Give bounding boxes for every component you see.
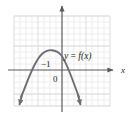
x-axis-label: x [120, 65, 125, 75]
figure-parabola-graph: x −1 0 y = f(x) [0, 0, 135, 121]
curve-label-equals: = [68, 51, 78, 61]
origin-label: 0 [53, 74, 58, 84]
tick-label-minus-one: −1 [41, 59, 51, 69]
graph-canvas: x −1 0 y = f(x) [0, 0, 135, 121]
curve-equation-label: y = f(x) [63, 51, 92, 62]
curve-label-arg: (x) [81, 51, 92, 62]
